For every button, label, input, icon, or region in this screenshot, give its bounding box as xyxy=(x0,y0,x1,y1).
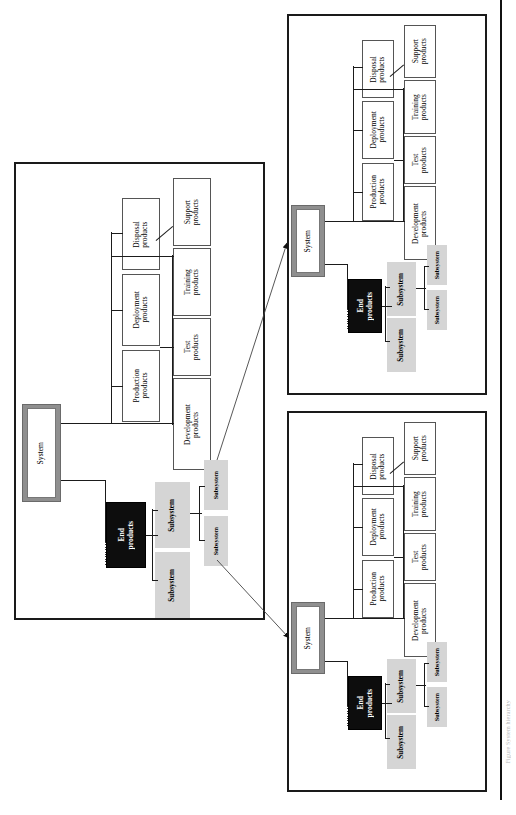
main-connector-stub-disposal xyxy=(111,233,123,234)
main-connector-subsys-spine xyxy=(152,509,153,581)
main-panel-subsystem-3[interactable]: Subsystem xyxy=(204,460,228,510)
main-panel-development-products[interactable]: Development products xyxy=(173,378,211,470)
top-panel-support-products[interactable]: Support products xyxy=(404,25,436,78)
top-connector-stub-training xyxy=(354,89,404,90)
main-panel-subsystem-2-label: Subsystem xyxy=(168,499,176,532)
main-panel-system-node[interactable]: System xyxy=(22,404,61,502)
bottom-panel-disposal-products-label: Disposal products xyxy=(370,453,387,480)
top-end-products-dotted-stub xyxy=(347,309,348,329)
top-panel-system-node[interactable]: System xyxy=(291,205,325,277)
main-connector-products-spine xyxy=(111,232,112,424)
figure-caption: Figure System hierarchy xyxy=(505,700,511,764)
bottom-connector-system-to-products xyxy=(325,618,354,619)
main-connector-right-column-spine xyxy=(172,255,173,425)
main-connector-subsys4-stub xyxy=(199,540,205,541)
bottom-panel-subsystem-3-label: Subsystem xyxy=(434,648,441,676)
main-connector-stub-training xyxy=(112,256,174,257)
bottom-panel-subsystem-4[interactable]: Subsystem xyxy=(427,687,447,727)
bottom-panel-test-products-label: Test products xyxy=(412,544,429,570)
main-panel-disposal-products[interactable]: Disposal products xyxy=(122,198,160,270)
bottom-connector-subsys4-stub xyxy=(424,706,429,707)
top-panel-end-products[interactable]: End products xyxy=(348,279,382,333)
main-connector-stub-test xyxy=(160,347,174,348)
main-connector-stub-deployment xyxy=(111,310,123,311)
main-panel-end-products-label: End products xyxy=(118,521,135,550)
top-panel-system-label: System xyxy=(304,230,313,252)
bottom-panel-development-products-label: Development products xyxy=(412,600,429,641)
top-panel-subsystem-4-label: Subsystem xyxy=(434,296,441,324)
bottom-panel-subsystem-3[interactable]: Subsystem xyxy=(427,642,447,682)
bottom-panel-support-products-label: Support products xyxy=(412,435,429,461)
top-connector-subsys1-stub xyxy=(385,341,390,342)
main-panel-development-products-label: Development products xyxy=(184,404,201,445)
main-panel-deployment-products[interactable]: Deployment products xyxy=(122,274,160,346)
bottom-connector-subsys3-stub xyxy=(424,663,429,664)
top-panel-subsystem-1[interactable]: Subsystem xyxy=(387,318,416,372)
bottom-connector-to-right-column xyxy=(353,618,405,619)
bottom-connector-stub-deployment xyxy=(353,527,363,528)
bottom-panel-system-node[interactable]: System xyxy=(291,602,325,674)
main-panel-support-products[interactable]: Support products xyxy=(173,178,211,246)
bottom-connector-stub-disposal xyxy=(353,464,363,465)
bottom-connector-subsys-children-spine xyxy=(424,663,425,707)
bottom-panel-production-products-label: Production products xyxy=(370,572,387,605)
bottom-connector-stub-test xyxy=(394,557,404,558)
bottom-panel-test-products[interactable]: Test products xyxy=(404,533,436,581)
bottom-panel-subsystem-2[interactable]: Subsystem xyxy=(387,659,416,713)
top-panel-subsystem-2-label: Subsystem xyxy=(397,273,405,306)
bottom-end-products-dotted-stub xyxy=(347,706,348,726)
top-panel-disposal-products-label: Disposal products xyxy=(370,56,387,83)
bottom-connector-stub-training xyxy=(354,486,404,487)
top-panel-production-products[interactable]: Production products xyxy=(362,163,394,221)
bottom-panel-support-products[interactable]: Support products xyxy=(404,422,436,475)
main-connector-subsys3-stub xyxy=(199,486,205,487)
top-connector-end-to-subsys xyxy=(382,306,392,307)
bottom-panel-training-products[interactable]: Training products xyxy=(404,477,436,531)
top-connector-subsys-children-spine xyxy=(424,266,425,310)
top-panel-subsystem-4[interactable]: Subsystem xyxy=(427,290,447,330)
main-connector-subsys2-to-children xyxy=(190,513,202,514)
main-connector-subsys2-stub xyxy=(152,510,158,511)
main-panel-subsystem-1[interactable]: Subsystem xyxy=(155,552,190,618)
main-panel-end-products[interactable]: End products xyxy=(106,502,146,568)
top-panel-test-products[interactable]: Test products xyxy=(404,136,436,184)
top-panel-subsystem-3[interactable]: Subsystem xyxy=(427,245,447,285)
top-connector-system-to-products xyxy=(325,221,354,222)
main-panel-test-products[interactable]: Test products xyxy=(173,318,211,376)
system-inner: System xyxy=(296,606,320,670)
top-panel-subsystem-3-label: Subsystem xyxy=(434,251,441,279)
top-connector-stub-test xyxy=(394,160,404,161)
main-connector-subsys-children-spine xyxy=(199,486,200,541)
bottom-panel-subsystem-1-label: Subsystem xyxy=(397,726,405,759)
main-panel-system-label: System xyxy=(37,442,46,464)
top-panel-deployment-products[interactable]: Deployment products xyxy=(362,101,394,159)
bottom-panel-end-products[interactable]: End products xyxy=(348,676,382,730)
main-connector-system-to-end xyxy=(61,480,106,481)
top-connector-system-to-end xyxy=(325,264,348,265)
top-connector-right-column-spine xyxy=(403,88,404,222)
top-connector-subsys-spine xyxy=(385,286,386,342)
bottom-connector-subsys1-stub xyxy=(385,738,390,739)
main-panel-training-products-label: Training products xyxy=(184,269,201,295)
bottom-connector-end-spine xyxy=(347,661,348,706)
bottom-panel-production-products[interactable]: Production products xyxy=(362,560,394,618)
main-panel-support-products-label: Support products xyxy=(184,199,201,225)
top-connector-stub-disposal xyxy=(353,67,363,68)
main-connector-to-right-column xyxy=(111,423,174,424)
main-panel-production-products[interactable]: Production products xyxy=(122,350,160,422)
top-panel-end-products-label: End products xyxy=(357,292,374,321)
top-panel-subsystem-2[interactable]: Subsystem xyxy=(387,262,416,316)
main-panel-test-products-label: Test products xyxy=(184,334,201,360)
top-connector-to-right-column xyxy=(353,221,405,222)
bottom-panel-deployment-products[interactable]: Deployment products xyxy=(362,498,394,556)
top-panel-development-products-label: Development products xyxy=(412,203,429,244)
top-panel-support-products-label: Support products xyxy=(412,38,429,64)
bottom-panel-subsystem-1[interactable]: Subsystem xyxy=(387,715,416,769)
main-panel-subsystem-4[interactable]: Subsystem xyxy=(204,516,228,566)
top-panel-test-products-label: Test products xyxy=(412,147,429,173)
main-panel-subsystem-3-label: Subsystem xyxy=(213,471,220,499)
main-panel-training-products[interactable]: Training products xyxy=(173,248,211,316)
main-panel-subsystem-2[interactable]: Subsystem xyxy=(155,482,190,548)
main-connector-subsys1-stub xyxy=(152,580,158,581)
top-panel-training-products[interactable]: Training products xyxy=(404,80,436,134)
